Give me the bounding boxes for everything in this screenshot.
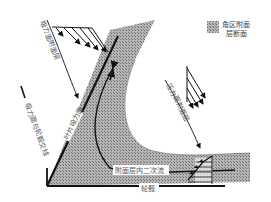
svg-text:吸力面与轮毂交线: 吸力面与轮毂交线	[23, 102, 51, 158]
corner-region-shading	[47, 20, 250, 186]
legend-line2: 层断面	[226, 29, 247, 38]
svg-text:附面层内二次流: 附面层内二次流	[115, 166, 164, 175]
svg-text:吸力面附面层: 吸力面附面层	[38, 19, 62, 61]
label-secondary-flow: 附面层内二次流	[113, 165, 169, 175]
corner-boundary-layer-diagram: 吸力面附面层 压力面附面层 吸力面与轮毂交线 叶片吸力面 附面层内二次流 轮毂 …	[0, 0, 271, 202]
svg-text:轮毂: 轮毂	[141, 184, 155, 193]
label-hub: 轮毂	[139, 183, 159, 193]
label-suction-side-bl: 吸力面附面层	[38, 19, 62, 61]
legend: 角区附面 层断面	[207, 20, 250, 38]
suction-hub-intersection-tick	[21, 86, 25, 98]
label-suction-hub-intersection: 吸力面与轮毂交线	[23, 102, 51, 158]
legend-swatch	[207, 21, 219, 33]
legend-line1: 角区附面	[222, 20, 250, 29]
